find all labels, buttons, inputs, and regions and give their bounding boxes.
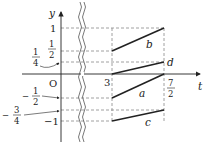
- segment-a: [112, 74, 164, 98]
- svg-text:3: 3: [14, 105, 19, 115]
- svg-text:−: −: [22, 91, 29, 101]
- graph-diagram: b d a c y t O 3 7 2 1 1 2 1 4 − 1 2 − 3 …: [0, 0, 208, 146]
- segment-d: [112, 62, 164, 74]
- y-tick-minus-1-2: − 1 2: [22, 86, 59, 107]
- x-tick-7-2: 7 2: [167, 78, 175, 99]
- y-tick-1-4: 1 4: [32, 47, 59, 68]
- segment-b: [112, 28, 164, 51]
- t-axis-label: t: [198, 80, 203, 92]
- svg-text:1: 1: [33, 47, 38, 57]
- svg-text:4: 4: [33, 58, 38, 68]
- y-tick-1-2: 1 2: [48, 39, 56, 60]
- svg-text:2: 2: [168, 89, 173, 99]
- segment-c: [112, 110, 164, 121]
- y-tick-1: 1: [50, 23, 56, 34]
- segments: [112, 28, 164, 121]
- svg-text:2: 2: [33, 97, 38, 107]
- y-axis-label: y: [48, 7, 56, 19]
- segment-label-c: c: [145, 116, 151, 128]
- svg-text:7: 7: [168, 78, 173, 88]
- svg-text:1: 1: [49, 39, 54, 49]
- svg-text:2: 2: [49, 50, 54, 60]
- segment-label-b: b: [146, 38, 153, 50]
- svg-text:1: 1: [33, 86, 38, 96]
- segment-label-d: d: [167, 56, 174, 68]
- svg-text:−: −: [2, 110, 9, 120]
- svg-text:4: 4: [14, 116, 19, 126]
- x-tick-3: 3: [104, 77, 110, 88]
- axis-break-gap: [81, 72, 84, 76]
- origin-label: O: [49, 78, 57, 89]
- y-tick-minus-1: −1: [44, 116, 59, 127]
- segment-label-a: a: [139, 87, 145, 99]
